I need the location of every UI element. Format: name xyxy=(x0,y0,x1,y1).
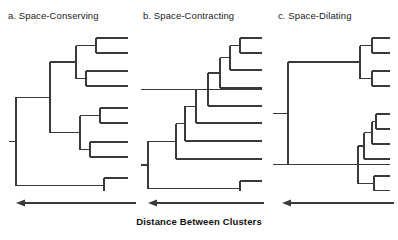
axis-arrowhead-icon xyxy=(282,200,291,207)
panel-space-contracting: b. Space-Contracting xyxy=(140,0,268,215)
dendrogram-b xyxy=(140,26,268,191)
panel-title-a: a. Space-Conserving xyxy=(8,10,99,21)
dendrogram-c xyxy=(272,26,398,191)
panel-title-b: b. Space-Contracting xyxy=(143,10,234,21)
figure-canvas: a. Space-Conserving b. Space-Contracting… xyxy=(0,0,398,240)
panel-title-c: c. Space-Dilating xyxy=(278,10,352,21)
dendrogram-a xyxy=(8,26,136,191)
axis-arrowhead-icon xyxy=(16,200,25,207)
distance-axis-a xyxy=(8,195,136,215)
axis-caption: Distance Between Clusters xyxy=(0,216,398,227)
axis-arrowhead-icon xyxy=(148,200,157,207)
distance-axis-c xyxy=(272,195,398,215)
panel-space-dilating: c. Space-Dilating xyxy=(272,0,398,215)
distance-axis-b xyxy=(140,195,268,215)
panel-space-conserving: a. Space-Conserving xyxy=(8,0,136,215)
